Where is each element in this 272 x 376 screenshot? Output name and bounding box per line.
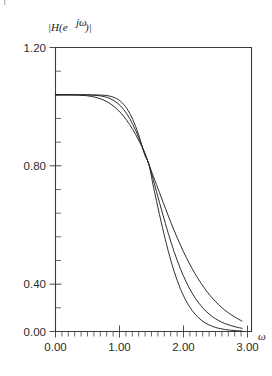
y-axis-tick-labels: 1.20 0.80 0.40 0.00 [24,42,46,338]
data-curves [56,95,243,331]
y-tick-label-1: 0.40 [24,278,46,290]
response-curve-2 [56,95,243,331]
magnitude-response-chart: |H(e jω )| 1.20 0.80 0.40 0.00 [0,0,272,376]
x-tick-label-2: 2.00 [172,341,194,353]
y-axis-title-tail: )| [84,21,92,34]
x-axis-title: ω [258,330,266,342]
y-tick-label-3: 1.20 [24,42,46,54]
response-curve-1 [56,95,243,328]
x-tick-label-1: 1.00 [108,341,130,353]
response-curve-0 [56,95,243,321]
scan-artifact [4,0,5,5]
y-tick-label-0: 0.00 [24,326,46,338]
x-tick-label-0: 0.00 [44,341,66,353]
x-axis-tick-labels: 0.00 1.00 2.00 3.00 [44,341,258,353]
x-tick-label-3: 3.00 [236,341,258,353]
y-axis-title: |H(e jω )| [48,16,92,34]
y-axis-title-text: |H(e [48,21,68,34]
y-tick-label-2: 0.80 [24,160,46,172]
